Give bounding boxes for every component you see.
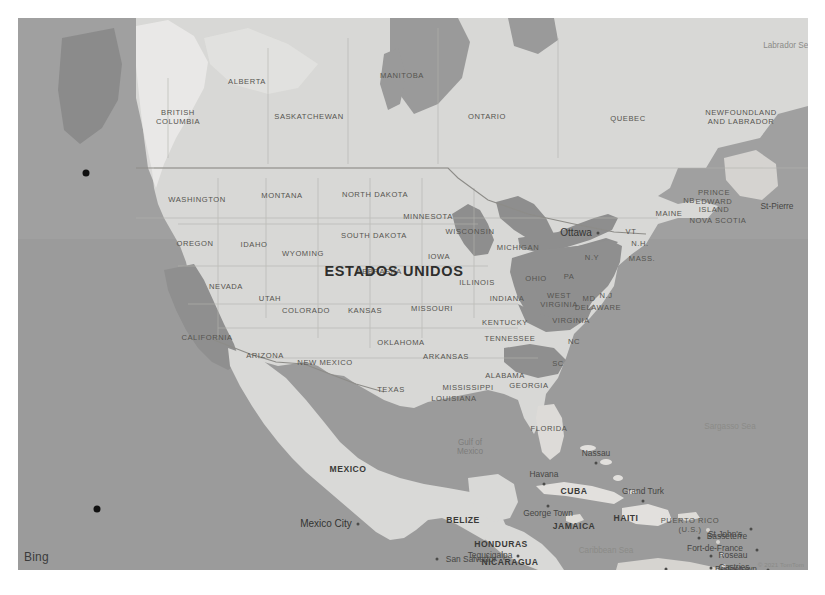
city-dot-nassau <box>595 462 598 465</box>
map-viewport[interactable]: BRITISH COLUMBIAALBERTASASKATCHEWANMANIT… <box>18 18 808 570</box>
landmass-lesser-antilles <box>706 528 736 570</box>
city-dot-roseau <box>710 555 713 558</box>
highlight-alaska-panhandle <box>58 28 122 144</box>
landmass-florida <box>536 404 564 460</box>
city-dot-san-salvador <box>436 558 439 561</box>
map-geometry <box>18 18 808 570</box>
pacific-marker-south[interactable] <box>94 506 101 513</box>
city-dot-basseterre <box>698 537 701 540</box>
city-dot-castries <box>710 567 713 570</box>
landmass-cuba <box>536 482 624 504</box>
landmass-hispaniola <box>622 504 672 526</box>
city-dot-mexico-city <box>357 523 360 526</box>
city-dot-george-town <box>547 505 550 508</box>
city-dot-tegucigalpa <box>517 555 520 558</box>
landmass-puerto-rico <box>678 512 700 521</box>
landmass-central-america <box>484 524 564 570</box>
bing-logo[interactable]: Bing <box>24 550 49 564</box>
city-dot-ottawa <box>597 232 600 235</box>
pacific-marker-north[interactable] <box>83 170 90 177</box>
city-dot-bridgetown <box>767 569 770 571</box>
city-dot-fort-de-france <box>756 549 759 552</box>
city-dot-grand-turk <box>642 500 645 503</box>
city-dot-havana <box>543 483 546 486</box>
city-dot-willemstad <box>665 568 668 571</box>
landmass-jamaica <box>566 514 584 524</box>
city-dot-st-john-s <box>750 528 753 531</box>
map-attribution: © 2021 TomTom <box>758 561 804 568</box>
landmass-newfoundland <box>724 150 778 200</box>
